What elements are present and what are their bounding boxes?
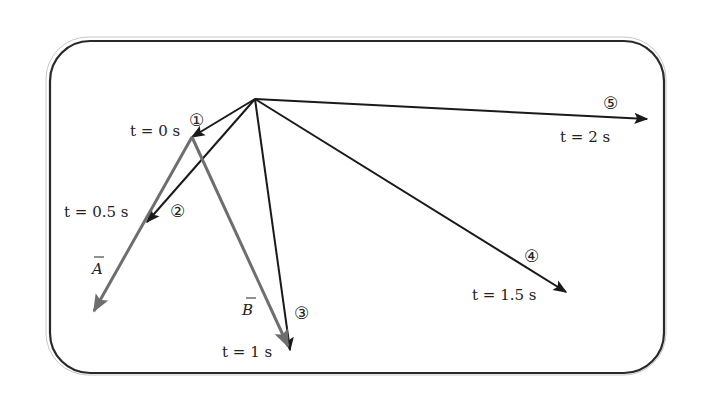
time-label-2: t = 0.5 s	[64, 203, 128, 221]
vector-b	[192, 137, 288, 346]
marker-4: ④	[524, 246, 539, 266]
diagram-frame	[46, 37, 666, 375]
time-label-1: t = 0 s	[130, 122, 180, 140]
vector-a	[94, 137, 192, 311]
marker-2: ②	[170, 201, 185, 221]
vector-diagram: A B ① ② ③ ④ ⑤ t = 0 s t = 0.5 s t = 1 s …	[0, 0, 703, 395]
vector-b-label: B	[241, 301, 253, 319]
time-labels: t = 0 s t = 0.5 s t = 1 s t = 1.5 s t = …	[64, 122, 610, 361]
vector-a-label: A	[90, 260, 103, 278]
time-label-5: t = 2 s	[560, 128, 610, 146]
time-label-3: t = 1 s	[222, 343, 272, 361]
vector-labels: A B	[90, 257, 256, 319]
marker-5: ⑤	[603, 93, 618, 113]
position-vector-5	[255, 99, 647, 119]
marker-1: ①	[189, 110, 204, 130]
point-markers: ① ② ③ ④ ⑤	[170, 93, 618, 323]
position-vector-4	[255, 99, 566, 292]
displacement-vectors	[94, 137, 288, 346]
marker-3: ③	[294, 303, 309, 323]
time-label-4: t = 1.5 s	[472, 286, 536, 304]
